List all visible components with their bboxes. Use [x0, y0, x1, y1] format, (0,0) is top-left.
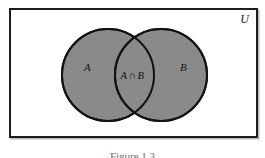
intersection-label: A∩B: [0, 70, 265, 81]
intersection-label-right: B: [138, 70, 145, 81]
universal-set-label: U: [240, 13, 249, 25]
venn-diagram-figure: U A B A∩B Figure 1.3: [0, 0, 265, 158]
intersection-operator-icon: ∩: [127, 70, 137, 81]
figure-caption: Figure 1.3: [0, 150, 265, 158]
